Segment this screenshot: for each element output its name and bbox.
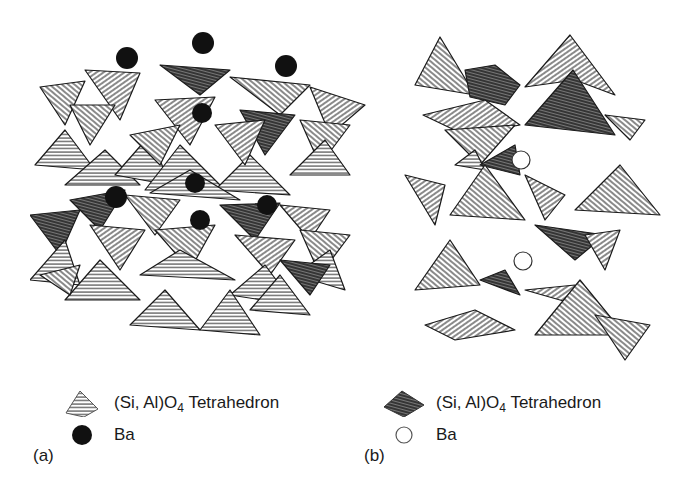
tetrahedron-light-icon	[58, 388, 106, 418]
tetrahedron-dark-icon	[380, 388, 428, 418]
legend-b-ba: Ba	[380, 420, 457, 450]
legend-b-tetrahedron: (Si, Al)O4 Tetrahedron	[380, 388, 601, 418]
panel-label-b: (b)	[364, 446, 385, 466]
framework-a-svg	[30, 25, 370, 365]
open-circle-icon	[380, 420, 428, 450]
structure-a-diagram	[30, 25, 370, 365]
filled-circle-icon	[58, 420, 106, 450]
structure-b-diagram	[395, 25, 685, 365]
framework-b-svg	[395, 25, 685, 365]
legend-a-tetrahedron: (Si, Al)O4 Tetrahedron	[58, 388, 279, 418]
legend-a-ba: Ba	[58, 420, 135, 450]
panel-label-a: (a)	[33, 446, 54, 466]
